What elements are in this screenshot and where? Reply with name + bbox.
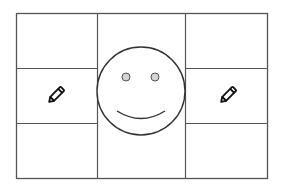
edit-right-button[interactable] [213, 80, 243, 110]
pencil-icon [45, 84, 67, 106]
pencil-icon [217, 84, 239, 106]
face-outline [97, 47, 185, 135]
diagram-canvas [0, 0, 284, 189]
smiley-face [97, 47, 185, 135]
right-eye [151, 73, 159, 81]
left-eye [122, 73, 130, 81]
edit-left-button[interactable] [41, 80, 71, 110]
